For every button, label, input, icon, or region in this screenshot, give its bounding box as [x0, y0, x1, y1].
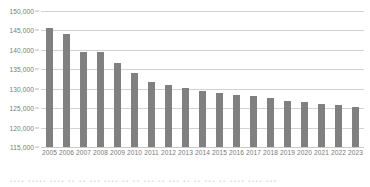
bar [267, 98, 274, 147]
bar [148, 82, 155, 147]
bar [63, 34, 70, 147]
x-axis: 2005200620072008200920102011201220132014… [41, 149, 364, 161]
bars-layer [41, 11, 364, 147]
y-axis-tick-label: 150,000 [9, 8, 34, 15]
x-axis-tick-label: 2014 [195, 149, 210, 156]
y-axis-tick-mark [35, 108, 39, 109]
y-axis-tick-mark [35, 69, 39, 70]
y-axis-tick-mark [35, 11, 39, 12]
y-axis-tick-label: 115,000 [10, 144, 34, 151]
bar [97, 52, 104, 147]
bar [131, 73, 138, 147]
x-axis-tick-label: 2020 [297, 149, 312, 156]
x-axis-tick-label: 2005 [42, 149, 57, 156]
y-axis-tick-label: 145,000 [9, 27, 34, 34]
y-axis-tick-label: 125,000 [9, 105, 34, 112]
y-axis: 115,000120,000125,000130,000135,000140,0… [0, 0, 39, 187]
x-axis-tick-label: 2018 [263, 149, 278, 156]
x-axis-tick-label: 2017 [246, 149, 261, 156]
plot-area [41, 11, 364, 147]
bar [233, 95, 240, 147]
bar [284, 101, 291, 147]
x-axis-tick-label: 2011 [144, 149, 158, 156]
caption-text: ▪▪▪▪ ▪▪▪▪▪ ▪▪▪▪ ▪▪ ▪▪ ▪▪▪ ▪▪▪▪ ▪▪ ▪▪ ▪▪▪… [10, 178, 362, 184]
bar [46, 28, 53, 147]
x-axis-tick-label: 2022 [331, 149, 346, 156]
x-axis-tick-label: 2013 [178, 149, 193, 156]
y-axis-tick-mark [35, 88, 39, 89]
y-axis-tick-label: 140,000 [9, 46, 34, 53]
x-axis-tick-label: 2016 [229, 149, 244, 156]
y-axis-tick-mark [35, 49, 39, 50]
y-axis-tick-mark [35, 147, 39, 148]
y-axis-tick-mark [35, 127, 39, 128]
bar [216, 93, 223, 147]
caption-strip: ▪▪▪▪ ▪▪▪▪▪ ▪▪▪▪ ▪▪ ▪▪ ▪▪▪ ▪▪▪▪ ▪▪ ▪▪ ▪▪▪… [10, 178, 362, 184]
bar-chart: 115,000120,000125,000130,000135,000140,0… [0, 0, 370, 187]
x-axis-tick-label: 2023 [348, 149, 363, 156]
x-axis-tick-label: 2009 [110, 149, 125, 156]
x-axis-tick-label: 2012 [161, 149, 176, 156]
bar [335, 105, 342, 147]
bar [114, 63, 121, 147]
x-axis-tick-label: 2008 [93, 149, 108, 156]
bar [352, 107, 359, 147]
x-axis-tick-label: 2006 [59, 149, 74, 156]
x-axis-tick-label: 2021 [314, 149, 329, 156]
x-axis-tick-label: 2015 [212, 149, 227, 156]
gridline [41, 147, 364, 148]
bar [165, 85, 172, 147]
y-axis-tick-label: 120,000 [9, 124, 34, 131]
y-axis-tick-mark [35, 30, 39, 31]
y-axis-tick-label: 135,000 [9, 66, 34, 73]
x-axis-tick-label: 2019 [280, 149, 295, 156]
x-axis-tick-label: 2007 [76, 149, 91, 156]
bar [318, 104, 325, 147]
bar [80, 52, 87, 147]
x-axis-tick-label: 2010 [127, 149, 142, 156]
bar [199, 91, 206, 147]
y-axis-tick-label: 130,000 [9, 85, 34, 92]
bar [182, 88, 189, 147]
bar [301, 102, 308, 147]
bar [250, 96, 257, 147]
